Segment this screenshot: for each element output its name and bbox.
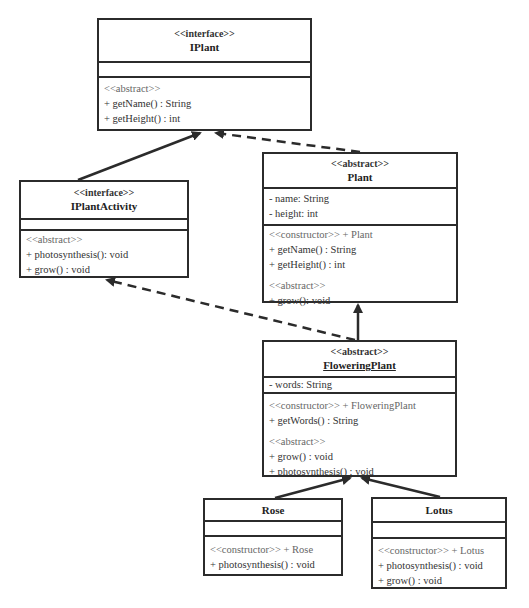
generalization-iplantactivity-iplant [78,133,200,180]
stereotype: <<abstract>> [26,232,182,247]
attribute: - height: int [269,206,451,221]
operations-section: <<abstract>> + photosynthesis(): void + … [21,231,187,280]
class-header: Rose [205,500,341,522]
operation: + photosynthesis() : void [378,558,500,573]
class-floweringplant[interactable]: <<abstract>> FloweringPlant - words: Str… [262,340,457,477]
operation: + photosynthesis() : void [269,464,450,479]
class-header: <<abstract>> FloweringPlant [264,342,455,378]
operations-section: <<constructor>> + FloweringPlant + getWo… [264,394,455,482]
realization-plant-iplant [216,133,360,152]
operation: + photosynthesis() : void [210,557,336,572]
constructor-text: <<constructor>> + Plant [269,229,373,240]
class-header: <<abstract>> Plant [264,154,456,189]
operation: + grow() : void [26,262,182,277]
operation: + getWords() : String [269,413,450,428]
class-name: Lotus [373,503,505,517]
operations-section: <<constructor>> + Lotus + photosynthesis… [373,539,505,591]
class-plant[interactable]: <<abstract>> Plant - name: String - heig… [262,152,458,303]
operation: + grow() : void [269,449,450,464]
operation: + getHeight() : int [269,257,451,272]
operation: + getHeight() : int [104,111,305,126]
class-header: Lotus [373,499,505,523]
attributes-section [99,63,310,78]
stereotype: <<abstract>> [269,434,450,449]
operation: + getName() : String [269,242,451,257]
class-name: FloweringPlant [264,358,455,372]
operation: + grow(): void [269,293,451,308]
class-name: IPlant [99,40,310,54]
class-header: <<interface>> IPlantActivity [21,182,187,220]
attribute: - name: String [269,191,451,206]
class-iplantactivity[interactable]: <<interface>> IPlantActivity <<abstract>… [19,180,189,278]
class-iplant[interactable]: <<interface>> IPlant <<abstract>> + getN… [97,18,312,131]
class-rose[interactable]: Rose <<constructor>> + Rose + photosynth… [203,498,343,576]
constructor-text: <<constructor>> + Lotus [378,545,484,556]
stereotype: <<interface>> [99,28,310,40]
constructor: <<constructor>> + Plant [269,227,451,242]
class-lotus[interactable]: Lotus <<constructor>> + Lotus + photosyn… [371,497,507,589]
class-name: IPlantActivity [21,199,187,213]
constructor: <<constructor>> + Lotus [378,543,500,558]
stereotype: <<abstract>> [269,278,451,293]
attribute: - words: String [269,378,450,391]
class-name: Plant [264,170,456,184]
operations-section: <<abstract>> + getName() : String + getH… [99,78,310,129]
stereotype: <<interface>> [21,187,187,199]
operation: + photosynthesis(): void [26,247,182,262]
class-header: <<interface>> IPlant [99,20,310,63]
stereotype: <<abstract>> [264,158,456,170]
constructor-text: <<constructor>> + FloweringPlant [269,400,416,411]
constructor: <<constructor>> + FloweringPlant [269,398,450,413]
operations-section: <<constructor>> + Rose + photosynthesis(… [205,537,341,575]
attributes-section: - name: String - height: int [264,189,456,226]
operation: + grow() : void [378,573,500,588]
constructor-text: <<constructor>> + Rose [210,544,313,555]
operation: + getName() : String [104,96,305,111]
attributes-section: - words: String [264,378,455,394]
stereotype: <<abstract>> [104,81,305,96]
constructor: <<constructor>> + Rose [210,542,336,557]
attributes-section [205,522,341,537]
class-name: Rose [205,503,341,517]
stereotype: <<abstract>> [264,346,455,358]
attributes-section [21,220,187,231]
operations-section: <<constructor>> + Plant + getName() : St… [264,226,456,311]
attributes-section [373,523,505,539]
